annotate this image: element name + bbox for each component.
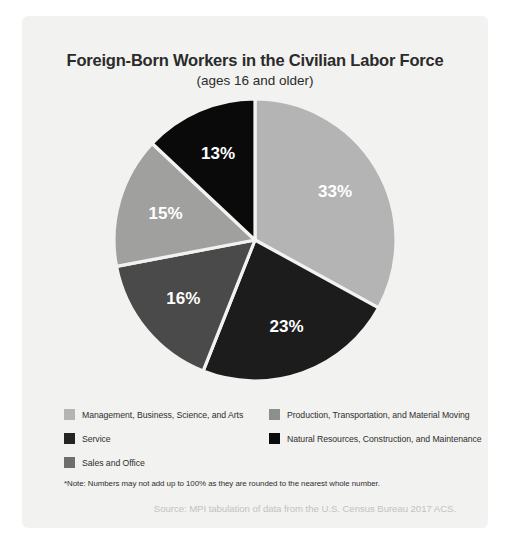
legend-item[interactable]: Natural Resources, Construction, and Mai… (269, 428, 474, 449)
chart-card: Foreign-Born Workers in the Civilian Lab… (22, 16, 488, 528)
pie-chart: 33%23%16%15%13% (113, 98, 397, 382)
legend-swatch (64, 457, 75, 468)
pie-slice-label: 15% (149, 204, 183, 223)
legend-swatch (269, 433, 280, 444)
pie-slice-label: 33% (318, 182, 352, 201)
chart-source: Source: MPI tabulation of data from the … (22, 503, 456, 514)
title-block: Foreign-Born Workers in the Civilian Lab… (22, 50, 488, 89)
page-title: Foreign-Born Workers in the Civilian Lab… (22, 50, 488, 71)
legend-swatch (64, 433, 75, 444)
legend-column-left: Management, Business, Science, and ArtsS… (64, 404, 269, 476)
legend-swatch (64, 409, 75, 420)
legend-label: Natural Resources, Construction, and Mai… (287, 434, 482, 444)
legend-label: Service (82, 434, 111, 444)
legend-swatch (269, 409, 280, 420)
pie-slice-label: 16% (166, 289, 200, 308)
legend-label: Management, Business, Science, and Arts (82, 410, 243, 420)
pie-chart-svg: 33%23%16%15%13% (113, 98, 397, 382)
legend-item[interactable]: Sales and Office (64, 452, 269, 473)
legend-label: Sales and Office (82, 458, 145, 468)
legend-item[interactable]: Service (64, 428, 269, 449)
legend-label: Production, Transportation, and Material… (287, 410, 470, 420)
pie-slice-label: 13% (201, 144, 235, 163)
legend-item[interactable]: Production, Transportation, and Material… (269, 404, 474, 425)
pie-slice-label: 23% (270, 317, 304, 336)
legend-item[interactable]: Management, Business, Science, and Arts (64, 404, 269, 425)
legend-column-right: Production, Transportation, and Material… (269, 404, 474, 452)
chart-subtitle: (ages 16 and older) (22, 72, 488, 90)
chart-note: *Note: Numbers may not add up to 100% as… (64, 479, 464, 488)
pie-slice-group (114, 99, 396, 381)
